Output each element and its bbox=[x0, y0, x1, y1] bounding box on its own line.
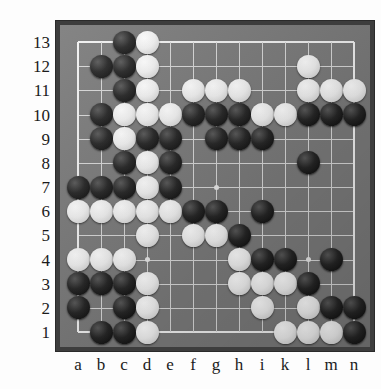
white-stone-d5[interactable] bbox=[136, 224, 159, 247]
black-stone-g10[interactable] bbox=[205, 103, 228, 126]
black-stone-b9[interactable] bbox=[90, 127, 113, 150]
white-stone-m1[interactable] bbox=[320, 321, 343, 344]
white-stone-d11[interactable] bbox=[136, 79, 159, 102]
black-stone-h10[interactable] bbox=[228, 103, 251, 126]
white-stone-n11[interactable] bbox=[343, 79, 366, 102]
white-stone-m11[interactable] bbox=[320, 79, 343, 102]
black-stone-m10[interactable] bbox=[320, 103, 343, 126]
white-stone-i2[interactable] bbox=[251, 296, 274, 319]
black-stone-m4[interactable] bbox=[320, 248, 343, 271]
black-stone-n1[interactable] bbox=[343, 321, 366, 344]
black-stone-a7[interactable] bbox=[67, 176, 90, 199]
black-stone-k4[interactable] bbox=[274, 248, 297, 271]
white-stone-d3[interactable] bbox=[136, 272, 159, 295]
white-stone-k3[interactable] bbox=[274, 272, 297, 295]
white-stone-a6[interactable] bbox=[67, 200, 90, 223]
black-stone-f6[interactable] bbox=[182, 200, 205, 223]
black-stone-c11[interactable] bbox=[113, 79, 136, 102]
black-stone-i6[interactable] bbox=[251, 200, 274, 223]
black-stone-g9[interactable] bbox=[205, 127, 228, 150]
row-label-7: 7 bbox=[6, 179, 50, 196]
black-stone-a2[interactable] bbox=[67, 296, 90, 319]
white-stone-i3[interactable] bbox=[251, 272, 274, 295]
white-stone-f5[interactable] bbox=[182, 224, 205, 247]
black-stone-c7[interactable] bbox=[113, 176, 136, 199]
white-stone-l12[interactable] bbox=[297, 55, 320, 78]
white-stone-k1[interactable] bbox=[274, 321, 297, 344]
white-stone-c9[interactable] bbox=[113, 127, 136, 150]
star-point-d4 bbox=[145, 257, 150, 262]
black-stone-l8[interactable] bbox=[297, 151, 320, 174]
black-stone-i9[interactable] bbox=[251, 127, 274, 150]
white-stone-e10[interactable] bbox=[159, 103, 182, 126]
white-stone-c10[interactable] bbox=[113, 103, 136, 126]
white-stone-b4[interactable] bbox=[90, 248, 113, 271]
white-stone-d13[interactable] bbox=[136, 31, 159, 54]
go-board-grid[interactable] bbox=[60, 25, 370, 347]
white-stone-c4[interactable] bbox=[113, 248, 136, 271]
white-stone-l11[interactable] bbox=[297, 79, 320, 102]
row-label-8: 8 bbox=[6, 155, 50, 172]
white-stone-d1[interactable] bbox=[136, 321, 159, 344]
row-label-12: 12 bbox=[6, 58, 50, 75]
black-stone-b3[interactable] bbox=[90, 272, 113, 295]
black-stone-c13[interactable] bbox=[113, 31, 136, 54]
row-label-9: 9 bbox=[6, 131, 50, 148]
black-stone-h5[interactable] bbox=[228, 224, 251, 247]
white-stone-l2[interactable] bbox=[297, 296, 320, 319]
column-label-b: b bbox=[90, 355, 112, 375]
column-label-e: e bbox=[159, 355, 181, 375]
black-stone-n2[interactable] bbox=[343, 296, 366, 319]
white-stone-c6[interactable] bbox=[113, 200, 136, 223]
white-stone-l1[interactable] bbox=[297, 321, 320, 344]
black-stone-f10[interactable] bbox=[182, 103, 205, 126]
black-stone-i4[interactable] bbox=[251, 248, 274, 271]
white-stone-d8[interactable] bbox=[136, 151, 159, 174]
column-label-g: g bbox=[205, 355, 227, 375]
star-point-l4 bbox=[306, 257, 311, 262]
white-stone-d7[interactable] bbox=[136, 176, 159, 199]
white-stone-a4[interactable] bbox=[67, 248, 90, 271]
black-stone-b12[interactable] bbox=[90, 55, 113, 78]
white-stone-i10[interactable] bbox=[251, 103, 274, 126]
black-stone-c1[interactable] bbox=[113, 321, 136, 344]
white-stone-h3[interactable] bbox=[228, 272, 251, 295]
black-stone-b10[interactable] bbox=[90, 103, 113, 126]
black-stone-e8[interactable] bbox=[159, 151, 182, 174]
black-stone-c8[interactable] bbox=[113, 151, 136, 174]
column-label-a: a bbox=[67, 355, 89, 375]
white-stone-d2[interactable] bbox=[136, 296, 159, 319]
row-label-13: 13 bbox=[6, 34, 50, 51]
white-stone-k10[interactable] bbox=[274, 103, 297, 126]
black-stone-n10[interactable] bbox=[343, 103, 366, 126]
column-label-k: k bbox=[274, 355, 296, 375]
black-stone-c12[interactable] bbox=[113, 55, 136, 78]
black-stone-d9[interactable] bbox=[136, 127, 159, 150]
white-stone-d10[interactable] bbox=[136, 103, 159, 126]
white-stone-d12[interactable] bbox=[136, 55, 159, 78]
row-label-6: 6 bbox=[6, 203, 50, 220]
black-stone-c2[interactable] bbox=[113, 296, 136, 319]
white-stone-g5[interactable] bbox=[205, 224, 228, 247]
black-stone-e7[interactable] bbox=[159, 176, 182, 199]
black-stone-l10[interactable] bbox=[297, 103, 320, 126]
black-stone-e9[interactable] bbox=[159, 127, 182, 150]
column-label-d: d bbox=[136, 355, 158, 375]
black-stone-b7[interactable] bbox=[90, 176, 113, 199]
white-stone-d6[interactable] bbox=[136, 200, 159, 223]
white-stone-f11[interactable] bbox=[182, 79, 205, 102]
white-stone-g11[interactable] bbox=[205, 79, 228, 102]
black-stone-b1[interactable] bbox=[90, 321, 113, 344]
white-stone-h11[interactable] bbox=[228, 79, 251, 102]
white-stone-e6[interactable] bbox=[159, 200, 182, 223]
black-stone-c3[interactable] bbox=[113, 272, 136, 295]
black-stone-h9[interactable] bbox=[228, 127, 251, 150]
black-stone-a3[interactable] bbox=[67, 272, 90, 295]
white-stone-h4[interactable] bbox=[228, 248, 251, 271]
black-stone-m2[interactable] bbox=[320, 296, 343, 319]
black-stone-l3[interactable] bbox=[297, 272, 320, 295]
column-label-h: h bbox=[228, 355, 250, 375]
row-label-1: 1 bbox=[6, 324, 50, 341]
white-stone-b6[interactable] bbox=[90, 200, 113, 223]
black-stone-g6[interactable] bbox=[205, 200, 228, 223]
